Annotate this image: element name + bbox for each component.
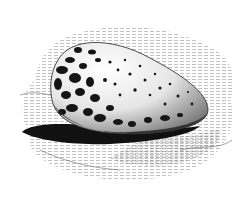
egg-illustration — [0, 0, 247, 202]
engraving-canvas — [0, 0, 247, 202]
